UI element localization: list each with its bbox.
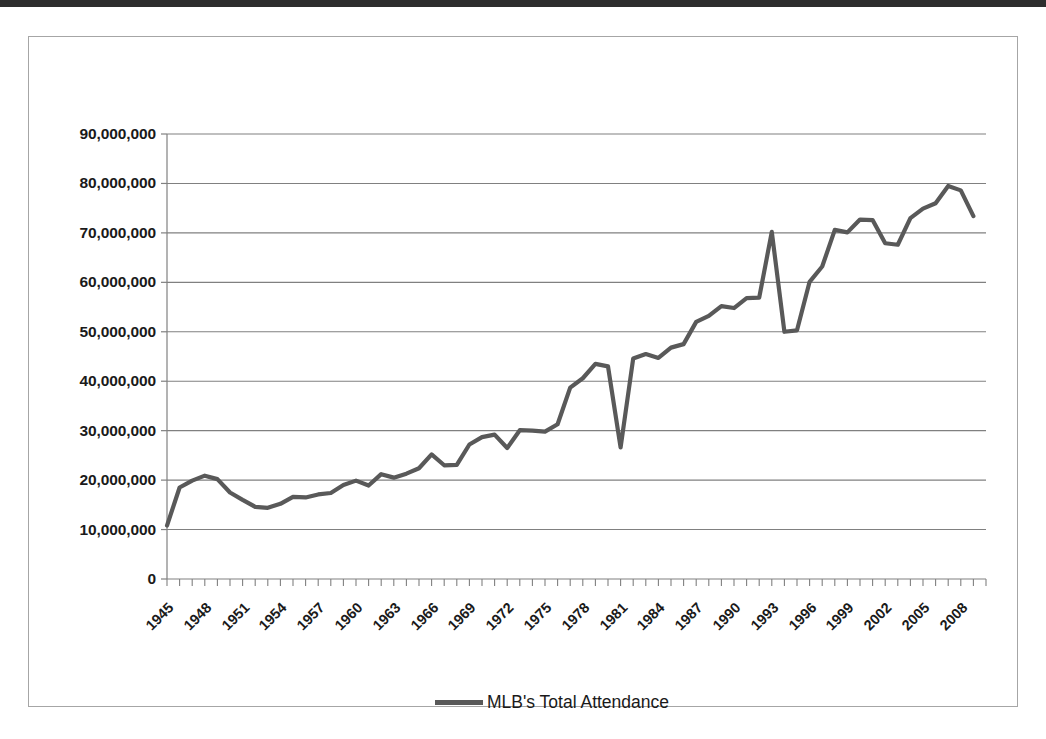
y-axis-ticks (161, 134, 167, 579)
chart-frame: 90,000,00080,000,00070,000,00060,000,000… (28, 36, 1018, 707)
page-edge-bar (0, 0, 1046, 7)
y-axis-tick-label: 90,000,000 (31, 125, 156, 143)
legend-series-label: MLB's Total Attendance (487, 692, 669, 713)
axis-lines (167, 134, 986, 579)
y-axis-tick-label: 20,000,000 (31, 471, 156, 489)
chart-plot-area (29, 37, 1017, 706)
y-axis-tick-label: 0 (31, 570, 156, 588)
y-axis-tick-label: 30,000,000 (31, 422, 156, 440)
y-axis-tick-label: 10,000,000 (31, 521, 156, 539)
y-axis-tick-label: 40,000,000 (31, 372, 156, 390)
data-series-line (167, 186, 973, 526)
chart-legend: MLB's Total Attendance (29, 692, 1046, 713)
y-axis-tick-label: 80,000,000 (31, 174, 156, 192)
y-axis-tick-label: 60,000,000 (31, 273, 156, 291)
y-axis-tick-label: 70,000,000 (31, 224, 156, 242)
x-axis-ticks (167, 579, 986, 586)
y-axis-tick-label: 50,000,000 (31, 323, 156, 341)
legend-line-swatch (435, 700, 483, 705)
page-edge-spacer (0, 7, 1046, 10)
gridlines (167, 134, 986, 530)
